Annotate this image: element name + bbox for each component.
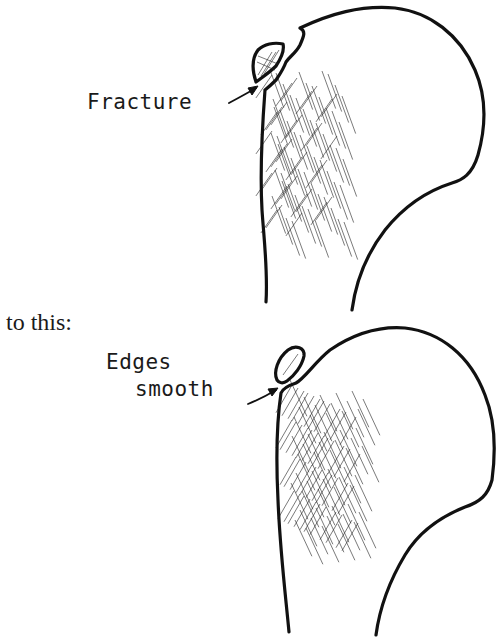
fracture-arrowhead [248, 86, 258, 95]
hatch-stroke [319, 442, 336, 478]
hatch-stroke [306, 123, 322, 146]
hatch-stroke [339, 122, 353, 160]
hatch-stroke [327, 516, 344, 552]
hatch-stroke [276, 139, 292, 162]
hatch-stroke [363, 399, 380, 435]
fracture-label: Fracture [87, 92, 192, 113]
hatch-stroke [281, 78, 297, 101]
hatch-stroke [346, 448, 363, 484]
hatch-stroke [307, 146, 321, 184]
hatch-stroke [350, 485, 367, 521]
transition-text: to this: [6, 310, 72, 334]
edges-smooth-arrowhead [268, 388, 278, 396]
hatch-stroke [266, 107, 282, 130]
hatch-stroke [351, 438, 368, 474]
hatch-stroke [279, 207, 293, 245]
hatch-stroke [315, 220, 329, 258]
hatch-stroke [343, 159, 357, 197]
hatch-stroke [335, 85, 349, 123]
hatch-stroke [290, 462, 306, 490]
bone-fractured [229, 7, 484, 310]
hatch-stroke [358, 409, 375, 445]
hatch-stroke [306, 528, 323, 564]
hatch-stroke [276, 181, 292, 204]
hatch-stroke [323, 479, 340, 515]
edges-smooth-label-line2: smooth [135, 379, 214, 400]
hatch-stroke [286, 115, 302, 138]
hatch-stroke [306, 165, 322, 188]
hatch-stroke [311, 518, 328, 554]
hatch-stroke [266, 149, 282, 172]
hatch-stroke [331, 208, 345, 246]
bone-shading-bottom [276, 380, 380, 564]
hatch-stroke [344, 454, 360, 482]
hatch-stroke [261, 168, 277, 191]
hatch-stroke [362, 446, 379, 482]
hatch-stroke [340, 417, 356, 445]
hatch-stroke [294, 499, 310, 527]
hatch-stroke [283, 84, 297, 122]
hatch-stroke [273, 99, 287, 137]
hatch-stroke [256, 131, 272, 154]
bone-outline-top [261, 7, 484, 310]
hatch-stroke [286, 157, 302, 180]
hatch-stroke [291, 158, 305, 196]
hatch-stroke [286, 425, 302, 453]
hatch-stroke [281, 120, 297, 143]
hatch-stroke [278, 491, 294, 519]
hatch-stroke [315, 405, 332, 441]
illustration-canvas [0, 0, 500, 641]
bone-outline-bottom [277, 328, 494, 635]
bone-shading-top [256, 70, 358, 260]
hatch-stroke [342, 96, 356, 134]
hatch-stroke [327, 171, 341, 209]
bone-smoothed [248, 328, 494, 635]
hatch-stroke [321, 136, 337, 159]
hatch-stroke [295, 520, 312, 556]
hatch-stroke [352, 391, 369, 427]
hatch-stroke [320, 512, 336, 540]
hatch-stroke [256, 173, 272, 196]
hatch-stroke [299, 72, 313, 110]
hatch-stroke [347, 401, 364, 437]
edges-smooth-label-line1: Edges [106, 352, 172, 373]
hatch-stroke [282, 388, 298, 416]
hatch-stroke [320, 395, 337, 431]
hatch-stroke [354, 522, 371, 558]
hatch-stroke [316, 197, 332, 220]
hatch-stroke [359, 512, 376, 548]
hatch-stroke [355, 475, 372, 511]
